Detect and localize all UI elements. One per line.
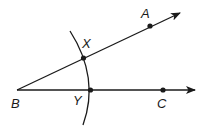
ray-ba <box>17 13 180 90</box>
label-y: Y <box>73 94 82 107</box>
diagram-svg <box>0 0 215 127</box>
geometry-diagram: A X B Y C <box>0 0 215 127</box>
label-b: B <box>11 97 20 110</box>
point-a <box>147 23 152 28</box>
point-y <box>88 87 93 92</box>
label-c: C <box>157 97 166 110</box>
label-x: X <box>82 37 91 50</box>
point-c <box>160 87 165 92</box>
point-x <box>81 55 86 60</box>
label-a: A <box>141 7 150 20</box>
